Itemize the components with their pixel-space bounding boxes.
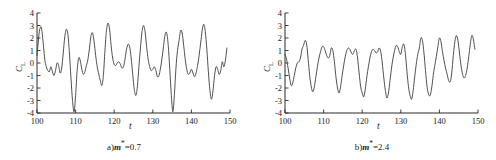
svg-text:3: 3: [278, 21, 282, 31]
svg-text:0: 0: [278, 58, 282, 68]
svg-text:120: 120: [108, 116, 121, 126]
plot-b-ylabel: CL: [262, 62, 274, 72]
chart-panel-a: -4-3-2-101234 100110120130140150 CL t a)…: [0, 0, 248, 160]
plot-b-data-line: [285, 35, 475, 99]
plot-a-ylabel: CL: [14, 62, 26, 72]
svg-text:-3: -3: [275, 96, 282, 106]
svg-text:110: 110: [69, 116, 81, 126]
svg-text:140: 140: [433, 116, 446, 126]
svg-text:-3: -3: [27, 96, 34, 106]
plot-a-yticks: -4-3-2-101234: [27, 8, 41, 118]
plot-b-xticks: 100110120130140150: [279, 110, 485, 127]
svg-text:-2: -2: [27, 83, 34, 93]
plot-b-svg: -4-3-2-101234 100110120130140150: [248, 0, 496, 135]
svg-text:-2: -2: [275, 83, 282, 93]
svg-text:4: 4: [30, 8, 35, 18]
svg-text:4: 4: [278, 8, 283, 18]
svg-text:100: 100: [279, 116, 292, 126]
svg-text:110: 110: [317, 116, 329, 126]
svg-text:1: 1: [30, 46, 34, 56]
plot-b-axes: [285, 13, 478, 113]
svg-text:120: 120: [356, 116, 369, 126]
svg-text:3: 3: [30, 21, 34, 31]
plot-a-xlabel: t: [129, 121, 132, 131]
svg-text:-1: -1: [275, 71, 282, 81]
plot-a-svg: -4-3-2-101234 100110120130140150: [0, 0, 248, 135]
svg-text:130: 130: [394, 116, 407, 126]
svg-text:150: 150: [472, 116, 485, 126]
plot-a-axes: [37, 13, 230, 113]
svg-text:2: 2: [30, 33, 34, 43]
plot-b-yticks: -4-3-2-101234: [275, 8, 289, 118]
plot-a-caption: a)m*=0.7: [0, 139, 248, 152]
svg-text:100: 100: [31, 116, 44, 126]
chart-panel-b: -4-3-2-101234 100110120130140150 CL t b)…: [248, 0, 496, 160]
figure-container: -4-3-2-101234 100110120130140150 CL t a)…: [0, 0, 496, 160]
plot-a-xticks: 100110120130140150: [31, 110, 237, 127]
svg-text:1: 1: [278, 46, 282, 56]
svg-text:140: 140: [185, 116, 198, 126]
svg-text:-1: -1: [27, 71, 34, 81]
svg-text:0: 0: [30, 58, 34, 68]
plot-b-caption: b)m*=2.4: [248, 139, 496, 152]
svg-text:130: 130: [146, 116, 159, 126]
svg-text:150: 150: [224, 116, 237, 126]
svg-text:2: 2: [278, 33, 282, 43]
plot-a-data-line: [37, 23, 227, 112]
plot-b-xlabel: t: [377, 121, 380, 131]
